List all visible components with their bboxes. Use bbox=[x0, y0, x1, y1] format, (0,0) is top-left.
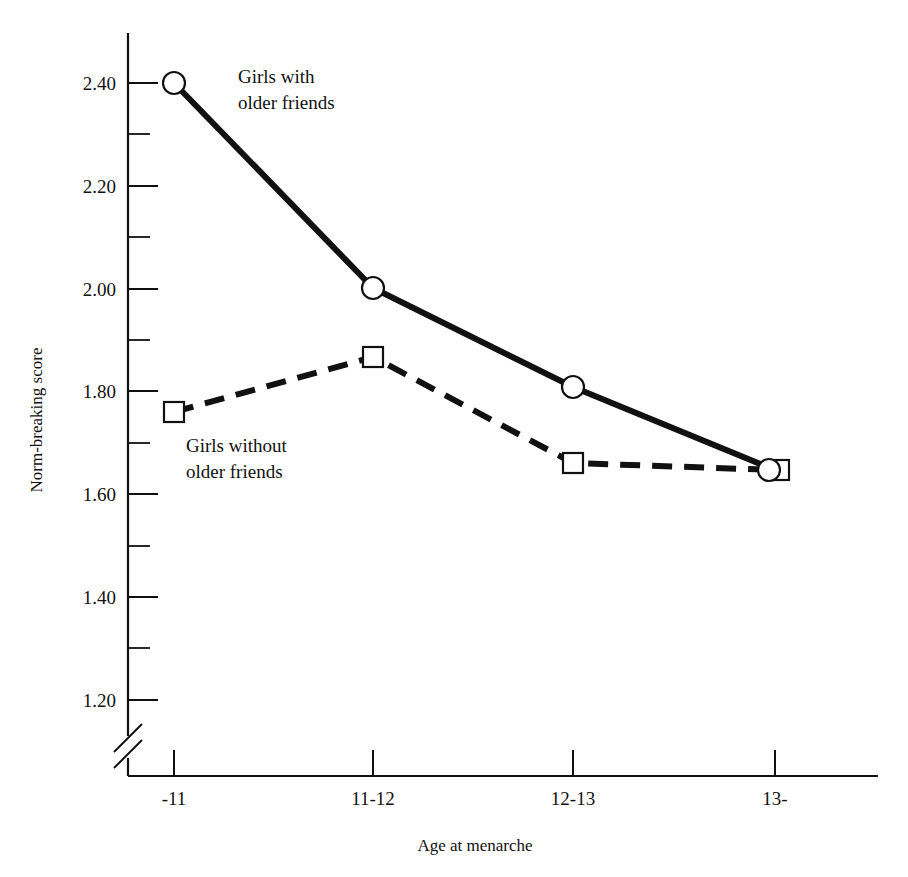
series-annotation-line1: Girls without bbox=[186, 435, 288, 456]
data-point-circle bbox=[362, 277, 384, 299]
x-tick-label: 11-12 bbox=[351, 788, 395, 809]
data-point-square bbox=[363, 347, 383, 367]
data-point-square bbox=[563, 453, 583, 473]
data-point-square bbox=[164, 402, 184, 422]
series-annotation-girls-without-older-friends: Girls without older friends bbox=[186, 435, 288, 482]
data-point-circle bbox=[758, 459, 780, 481]
y-axis-major-ticks bbox=[128, 83, 158, 700]
y-axis-title: Norm-breaking score bbox=[27, 348, 46, 493]
x-tick-label: -11 bbox=[162, 788, 187, 809]
y-tick-label: 1.40 bbox=[83, 587, 116, 608]
series-annotation-line1: Girls with bbox=[238, 66, 315, 87]
x-tick-label: 12-13 bbox=[551, 788, 595, 809]
y-axis-tick-labels: 2.40 2.20 2.00 1.80 1.60 1.40 1.20 bbox=[83, 73, 116, 711]
data-point-circle bbox=[163, 72, 185, 94]
data-point-circle bbox=[562, 376, 584, 398]
y-tick-label: 2.40 bbox=[83, 73, 116, 94]
series-annotation-girls-with-older-friends: Girls with older friends bbox=[238, 66, 335, 113]
y-tick-label: 1.20 bbox=[83, 690, 116, 711]
x-axis-ticks bbox=[174, 750, 775, 776]
x-axis-title: Age at menarche bbox=[417, 836, 532, 855]
y-tick-label: 1.60 bbox=[83, 484, 116, 505]
line-chart: 2.40 2.20 2.00 1.80 1.60 1.40 1.20 -11 1… bbox=[0, 0, 908, 877]
y-tick-label: 2.20 bbox=[83, 176, 116, 197]
x-axis-tick-labels: -11 11-12 12-13 13- bbox=[162, 788, 788, 809]
x-tick-label: 13- bbox=[762, 788, 787, 809]
y-tick-label: 1.80 bbox=[83, 381, 116, 402]
chart-figure: 2.40 2.20 2.00 1.80 1.60 1.40 1.20 -11 1… bbox=[0, 0, 908, 877]
series-annotation-line2: older friends bbox=[238, 92, 335, 113]
series-markers-girls-with-older-friends bbox=[163, 72, 780, 481]
series-annotation-line2: older friends bbox=[186, 461, 283, 482]
y-tick-label: 2.00 bbox=[83, 279, 116, 300]
